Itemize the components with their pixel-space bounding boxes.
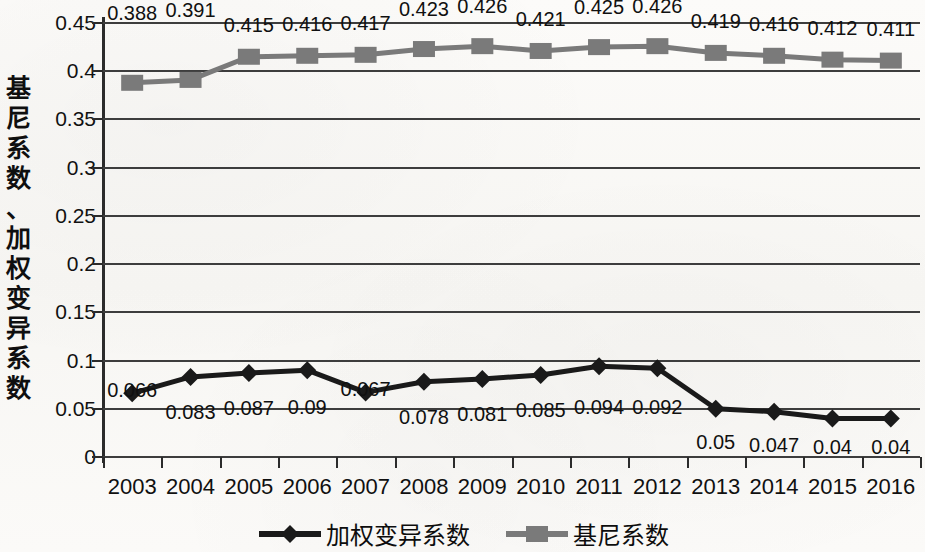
x-axis-tick-label: 2006	[283, 474, 332, 500]
data-point-marker	[705, 45, 727, 61]
data-point-label: 0.078	[399, 406, 449, 429]
x-axis-tick-label: 2004	[166, 474, 215, 500]
data-point-label: 0.094	[574, 396, 624, 419]
x-axis-tick-label: 2007	[341, 474, 390, 500]
data-point-label: 0.066	[107, 379, 157, 402]
data-point-label: 0.092	[632, 396, 682, 419]
data-point-marker	[880, 53, 902, 69]
y-axis-tick-label: 0.2	[32, 252, 96, 276]
y-axis-tick-mark	[92, 360, 103, 362]
chart-figure: 基尼系数、加权变异系数 0.450.40.350.30.250.20.150.1…	[0, 0, 925, 552]
data-point-label: 0.425	[574, 0, 624, 19]
x-axis-tick-mark	[395, 457, 397, 468]
data-point-label: 0.412	[807, 17, 857, 40]
data-point-label: 0.081	[457, 403, 507, 426]
data-point-label: 0.09	[288, 396, 327, 419]
y-axis-tick-mark	[92, 215, 103, 217]
data-point-marker	[121, 75, 143, 91]
x-axis-tick-label: 2003	[108, 474, 157, 500]
data-point-marker	[532, 366, 550, 384]
plot-area	[103, 23, 920, 457]
chart-legend: 加权变异系数基尼系数	[0, 516, 925, 551]
data-point-marker	[413, 41, 435, 57]
series-layer	[103, 23, 920, 457]
y-axis-tick-label: 0.3	[32, 156, 96, 180]
legend-label: 加权变异系数	[326, 516, 470, 551]
data-point-label: 0.391	[166, 0, 216, 22]
data-point-label: 0.416	[749, 13, 799, 36]
x-axis-tick-label: 2016	[866, 474, 915, 500]
data-point-marker	[821, 52, 843, 68]
x-axis-tick-label: 2010	[516, 474, 565, 500]
y-axis-tick-mark	[92, 311, 103, 313]
data-point-marker	[882, 409, 900, 427]
data-point-marker	[763, 48, 785, 64]
y-axis-tick-mark	[92, 167, 103, 169]
legend-square-icon	[504, 521, 570, 547]
y-axis-tick-label: 0.05	[32, 397, 96, 421]
x-axis-tick-mark	[920, 457, 922, 468]
y-axis-tick-label: 0.4	[32, 59, 96, 83]
y-axis-tick-label: 0	[32, 445, 96, 469]
x-axis-tick-mark	[570, 457, 572, 468]
data-point-label: 0.419	[691, 10, 741, 33]
x-axis-tick-mark	[628, 457, 630, 468]
x-axis-tick-mark	[220, 457, 222, 468]
x-axis-tick-label: 2015	[808, 474, 857, 500]
data-point-label: 0.423	[399, 0, 449, 21]
data-point-marker	[530, 43, 552, 59]
x-axis-tick-mark	[103, 457, 105, 468]
data-point-label: 0.04	[813, 436, 852, 459]
y-axis-tick-mark	[92, 22, 103, 24]
x-axis-tick-mark	[862, 457, 864, 468]
x-axis-tick-label: 2005	[224, 474, 273, 500]
legend-label: 基尼系数	[573, 516, 669, 551]
x-axis-tick-label: 2008	[399, 474, 448, 500]
data-point-marker	[355, 47, 377, 63]
data-point-marker	[646, 38, 668, 54]
data-point-label: 0.04	[871, 436, 910, 459]
x-axis-tick-mark	[278, 457, 280, 468]
data-point-label: 0.388	[107, 2, 157, 25]
data-point-marker	[765, 403, 783, 421]
data-point-marker	[182, 368, 200, 386]
data-point-label: 0.05	[696, 431, 735, 454]
x-axis-tick-label: 2013	[691, 474, 740, 500]
legend-diamond-icon	[257, 521, 323, 547]
y-axis-tick-mark	[92, 408, 103, 410]
x-axis-tick-mark	[512, 457, 514, 468]
data-point-marker	[590, 357, 608, 375]
y-axis-tick-label: 0.1	[32, 349, 96, 373]
x-axis-tick-mark	[687, 457, 689, 468]
y-axis-tick-mark	[92, 456, 103, 458]
data-point-marker	[296, 48, 318, 64]
x-axis-tick-mark	[803, 457, 805, 468]
legend-item[interactable]: 加权变异系数	[257, 516, 470, 551]
data-point-label: 0.067	[341, 378, 391, 401]
data-point-label: 0.085	[516, 399, 566, 422]
data-point-label: 0.426	[632, 0, 682, 18]
y-axis-tick-mark	[92, 70, 103, 72]
y-axis-tick-label: 0.15	[32, 300, 96, 324]
data-point-marker	[180, 72, 202, 88]
x-axis-tick-label: 2014	[750, 474, 799, 500]
data-point-marker	[588, 39, 610, 55]
x-axis-tick-label: 2011	[575, 474, 622, 500]
data-point-label: 0.411	[867, 18, 916, 41]
data-point-label: 0.415	[224, 14, 274, 37]
data-point-marker	[471, 38, 493, 54]
y-axis-tick-labels: 0.450.40.350.30.250.20.150.10.050	[30, 0, 96, 552]
data-point-marker	[238, 49, 260, 65]
y-axis-tick-mark	[92, 118, 103, 120]
x-axis-tick-mark	[745, 457, 747, 468]
data-point-label: 0.417	[341, 12, 391, 35]
y-axis-tick-label: 0.25	[32, 204, 96, 228]
legend-item[interactable]: 基尼系数	[504, 516, 669, 551]
y-axis-tick-label: 0.45	[32, 11, 96, 35]
data-point-label: 0.047	[749, 434, 799, 457]
x-axis-tick-mark	[161, 457, 163, 468]
data-point-label: 0.416	[282, 13, 332, 36]
y-axis-tick-label: 0.35	[32, 107, 96, 131]
data-point-label: 0.083	[166, 401, 216, 424]
data-point-label: 0.426	[457, 0, 507, 18]
